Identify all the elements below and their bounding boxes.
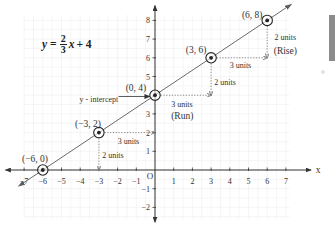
x-tick-label: −4	[76, 177, 85, 186]
data-point: (−6, 0)	[22, 154, 48, 175]
point-marker-dot	[265, 19, 269, 23]
x-axis-label: x	[316, 165, 321, 175]
y-axis-ticks: −2−11235678	[141, 16, 156, 212]
data-point: (6, 8)	[242, 10, 272, 26]
point-marker-dot	[153, 93, 157, 97]
faint-dot-mark	[321, 70, 325, 74]
point-marker-dot	[209, 56, 213, 60]
x-tick-label: −6	[39, 177, 48, 186]
x-tick-label: 2	[190, 177, 194, 186]
x-tick-label: 7	[284, 177, 288, 186]
y-tick-label: 7	[146, 35, 150, 44]
x-tick-label: −3	[95, 177, 104, 186]
x-tick-label: 1	[172, 177, 176, 186]
point-marker-dot	[41, 168, 45, 172]
y-tick-label: 3	[146, 110, 150, 119]
side-panel-edge	[329, 15, 335, 61]
x-tick-label: 6	[265, 177, 269, 186]
data-point: (3, 6)	[186, 45, 216, 63]
point-label: (−6, 0)	[22, 154, 48, 165]
rise-units-label: 2 units	[275, 33, 297, 42]
point-label: (3, 6)	[186, 45, 207, 56]
slope-numerator: 2	[60, 34, 67, 45]
x-tick-label: 3	[209, 177, 213, 186]
run-units-label: 3 units	[118, 137, 140, 146]
x-tick-label: −5	[57, 177, 66, 186]
x-tick-label: 4	[228, 177, 232, 186]
run-units-label: 3 units	[171, 100, 193, 109]
point-label: (−3, 2)	[75, 119, 101, 130]
y-tick-label: 1	[146, 147, 150, 156]
point-marker-dot	[97, 131, 101, 135]
equation-y-variable: y	[42, 38, 47, 50]
run-units-label: 3 units	[230, 61, 252, 70]
point-label: (0, 4)	[126, 83, 147, 94]
line-equation: y = 2 3 x + 4	[42, 33, 92, 55]
x-tick-label: −2	[113, 177, 122, 186]
point-label: (6, 8)	[242, 10, 263, 21]
rise-caption: (Rise)	[274, 46, 297, 57]
equation-equals-sign: =	[50, 38, 57, 50]
run-caption: (Run)	[171, 111, 193, 122]
y-tick-label: 2	[146, 129, 150, 138]
equation-x-variable: x	[69, 38, 75, 50]
x-tick-label: −1	[132, 177, 141, 186]
rise-units-label: 2 units	[102, 151, 124, 160]
rise-units-label: 2 units	[214, 78, 236, 87]
y-tick-label: 6	[146, 54, 150, 63]
slope-denominator: 3	[61, 45, 66, 55]
y-tick-label: 5	[146, 73, 150, 82]
y-intercept-label: y - intercept	[80, 95, 119, 104]
origin-label: O	[147, 171, 154, 181]
y-tick-label: −2	[141, 203, 150, 212]
equation-intercept-term: + 4	[76, 38, 91, 50]
x-tick-label: 5	[247, 177, 251, 186]
equation-slope-fraction: 2 3	[60, 34, 67, 55]
y-tick-label: 8	[146, 16, 150, 25]
y-tick-label: −1	[141, 185, 150, 194]
